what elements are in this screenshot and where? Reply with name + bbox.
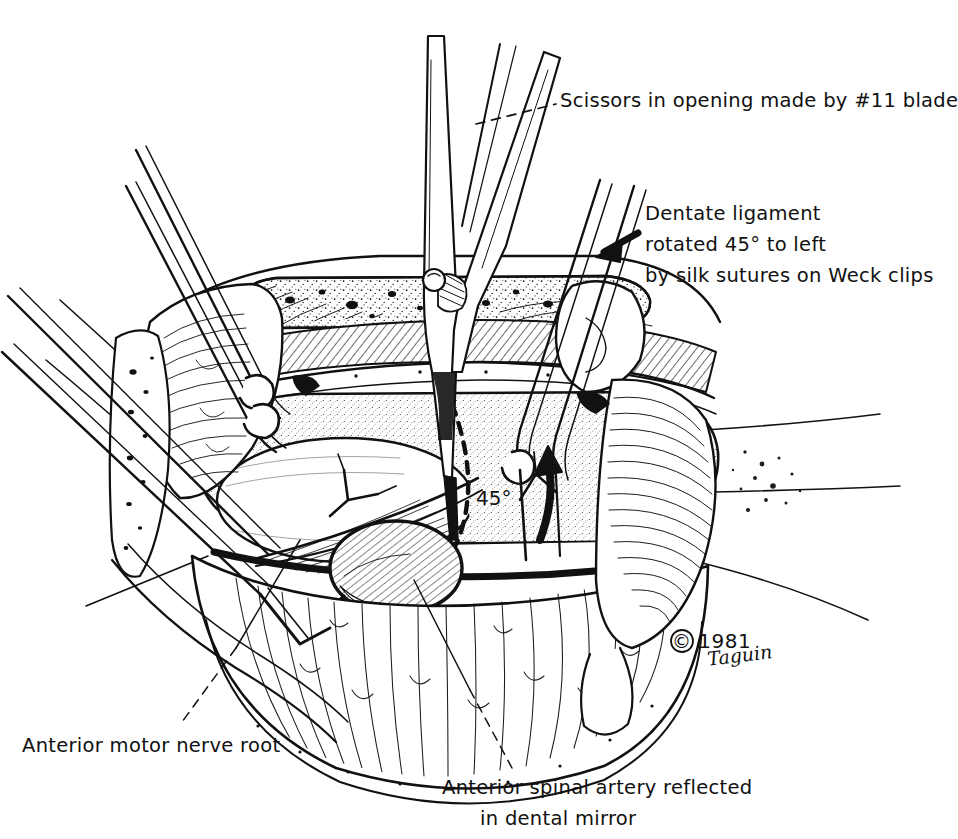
label-dentate-line2: rotated 45° to left: [645, 229, 934, 260]
label-anterior-motor-nerve-root: Anterior motor nerve root: [22, 730, 280, 761]
label-anterior-spinal-artery: Anterior spinal artery reflected in dent…: [442, 772, 752, 834]
label-artery-line1: Anterior spinal artery reflected: [442, 772, 752, 803]
copyright-symbol: ©: [672, 630, 692, 652]
label-dentate-line3: by silk sutures on Weck clips: [645, 260, 934, 291]
label-dentate-line1: Dentate ligament: [645, 198, 934, 229]
label-scissors: Scissors in opening made by #11 blade: [560, 85, 958, 116]
label-artery-line2: in dental mirror: [442, 803, 752, 834]
label-dentate-ligament: Dentate ligament rotated 45° to left by …: [645, 198, 934, 291]
label-angle-45-degrees: 45°: [476, 486, 511, 510]
